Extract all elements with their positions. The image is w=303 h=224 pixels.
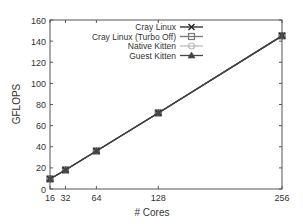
y-tick-label: 60	[36, 121, 46, 131]
legend: Cray LinuxCray Linux (Turbo Off)Native K…	[92, 22, 203, 61]
x-axis-label: # Cores	[134, 207, 169, 218]
legend-item: Cray Linux	[135, 22, 203, 32]
x-tick-label: 16	[45, 193, 55, 203]
y-axis-label: GFLOPS	[11, 83, 22, 124]
y-tick-label: 160	[31, 16, 46, 26]
chart-svg: 020406080100120140160 163264128256 # Cor…	[0, 0, 303, 224]
x-tick-label: 128	[151, 193, 166, 203]
y-tick-label: 120	[31, 58, 46, 68]
legend-item: Native Kitten	[128, 41, 203, 51]
y-tick-label: 80	[36, 100, 46, 110]
legend-label: Native Kitten	[128, 41, 176, 51]
legend-item: Guest Kitten	[129, 51, 203, 61]
legend-label: Guest Kitten	[129, 51, 176, 61]
x-tick-label: 256	[274, 193, 289, 203]
legend-item: Cray Linux (Turbo Off)	[92, 32, 203, 42]
y-tick-label: 100	[31, 79, 46, 89]
legend-label: Cray Linux	[135, 22, 176, 32]
y-tick-label: 140	[31, 37, 46, 47]
line-chart: 020406080100120140160 163264128256 # Cor…	[0, 0, 303, 224]
x-tick-label: 64	[91, 193, 101, 203]
y-tick-label: 20	[36, 163, 46, 173]
y-tick-label: 40	[36, 142, 46, 152]
x-tick-label: 32	[60, 193, 70, 203]
legend-label: Cray Linux (Turbo Off)	[92, 32, 176, 42]
